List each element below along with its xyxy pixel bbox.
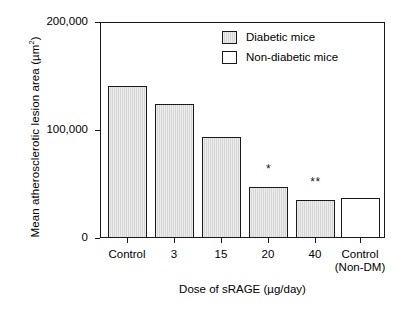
legend-item-non-diabetic[interactable]: Non-diabetic mice [222, 47, 338, 67]
y-axis-title: Mean atherosclerotic lesion area (µm2) [27, 22, 41, 252]
bar-dose-3[interactable] [155, 104, 194, 238]
x-tick-mark-3 [174, 238, 175, 243]
y-tick-mark-0 [95, 238, 100, 239]
x-tick-mark-control-non-dm [360, 238, 361, 243]
legend-label-non-diabetic: Non-diabetic mice [246, 51, 338, 63]
x-tick-mark-15 [221, 238, 222, 243]
legend: Diabetic mice Non-diabetic mice [222, 27, 338, 67]
y-axis-title-main: Mean atherosclerotic lesion area (µm [29, 45, 41, 238]
bar-dose-15[interactable] [202, 137, 241, 238]
bar-chart-figure: Mean atherosclerotic lesion area (µm2) 2… [0, 0, 409, 314]
significance-marker-dose-40: ** [296, 176, 335, 188]
bar-control-non-dm[interactable] [341, 198, 380, 238]
legend-swatch-diabetic-icon [222, 31, 237, 44]
y-tick-label-100000: 100,000 [22, 124, 88, 136]
x-tick-label-control-non-dm: Control(Non-DM) [325, 248, 395, 274]
bar-control[interactable] [108, 86, 147, 238]
x-tick-label-control-non-dm-line2: (Non-DM) [325, 261, 395, 274]
legend-label-diabetic: Diabetic mice [246, 31, 315, 43]
y-tick-label-0: 0 [22, 232, 88, 244]
bar-dose-40[interactable] [296, 200, 335, 238]
legend-item-diabetic[interactable]: Diabetic mice [222, 27, 338, 47]
x-tick-mark-20 [268, 238, 269, 243]
y-axis-title-exponent: 2 [27, 40, 36, 44]
y-axis-title-tail: ) [29, 36, 41, 40]
x-tick-label-control-non-dm-line1: Control [341, 248, 378, 260]
significance-marker-dose-20: * [249, 163, 288, 175]
x-tick-mark-control [127, 238, 128, 243]
legend-swatch-non-diabetic-icon [222, 51, 237, 64]
y-tick-label-200000: 200,000 [22, 16, 88, 28]
x-axis-title: Dose of sRAGE (µg/day) [100, 283, 385, 295]
x-tick-mark-40 [315, 238, 316, 243]
bar-dose-20[interactable] [249, 187, 288, 238]
